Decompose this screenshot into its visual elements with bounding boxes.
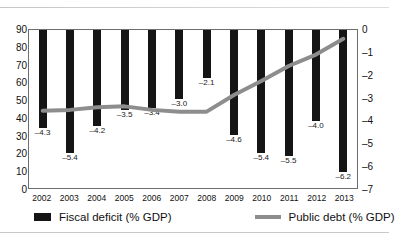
public-debt-line bbox=[43, 39, 344, 112]
x-tick-label: 2002 bbox=[28, 191, 56, 205]
y-tick-left: 70 bbox=[16, 59, 27, 70]
y-tick-left: 60 bbox=[16, 77, 27, 88]
y-tick-left: 80 bbox=[16, 41, 27, 52]
x-tick-label: 2003 bbox=[56, 191, 84, 205]
y-tick-right: –4 bbox=[362, 115, 373, 126]
y-tick-left: 30 bbox=[16, 130, 27, 141]
x-tick-label: 2009 bbox=[221, 191, 249, 205]
y-tick-left: 10 bbox=[16, 166, 27, 177]
x-tick-label: 2007 bbox=[166, 191, 194, 205]
x-tick-label: 2008 bbox=[193, 191, 221, 205]
x-tick-label: 2012 bbox=[303, 191, 331, 205]
legend-item-fiscal-deficit: Fiscal deficit (% GDP) bbox=[34, 211, 171, 223]
y-tick-left: 20 bbox=[16, 148, 27, 159]
legend-label-public-debt: Public debt (% GDP) bbox=[288, 211, 394, 223]
legend-item-public-debt: Public debt (% GDP) bbox=[255, 211, 394, 223]
y-tick-right: –7 bbox=[362, 184, 373, 195]
y-tick-right: –1 bbox=[362, 46, 373, 57]
plot-area: –4.3–5.4–4.2–3.5–3.4–3.0–2.1–4.6–5.4–5.5… bbox=[28, 29, 358, 189]
y-tick-left: 0 bbox=[21, 184, 27, 195]
x-tick-label: 2011 bbox=[276, 191, 304, 205]
chart-legend: Fiscal deficit (% GDP) Public debt (% GD… bbox=[28, 208, 368, 226]
line-series-public-debt bbox=[29, 30, 357, 188]
x-tick-label: 2004 bbox=[83, 191, 111, 205]
y-tick-left: 50 bbox=[16, 95, 27, 106]
y-tick-right: 0 bbox=[362, 24, 368, 35]
y-tick-right: –6 bbox=[362, 161, 373, 172]
top-divider bbox=[0, 7, 389, 8]
y-tick-right: –5 bbox=[362, 138, 373, 149]
legend-label-fiscal-deficit: Fiscal deficit (% GDP) bbox=[59, 211, 171, 223]
x-axis-labels: 2002200320042005200620072008200920102011… bbox=[28, 191, 358, 205]
x-tick-label: 2010 bbox=[248, 191, 276, 205]
y-tick-left: 40 bbox=[16, 112, 27, 123]
x-tick-label: 2006 bbox=[138, 191, 166, 205]
y-tick-left: 90 bbox=[16, 24, 27, 35]
line-swatch-icon bbox=[255, 215, 281, 219]
x-tick-label: 2005 bbox=[111, 191, 139, 205]
bar-swatch-icon bbox=[34, 213, 51, 221]
bottom-divider bbox=[0, 232, 389, 233]
x-tick-label: 2013 bbox=[331, 191, 359, 205]
y-tick-right: –3 bbox=[362, 92, 373, 103]
y-tick-right: –2 bbox=[362, 69, 373, 80]
